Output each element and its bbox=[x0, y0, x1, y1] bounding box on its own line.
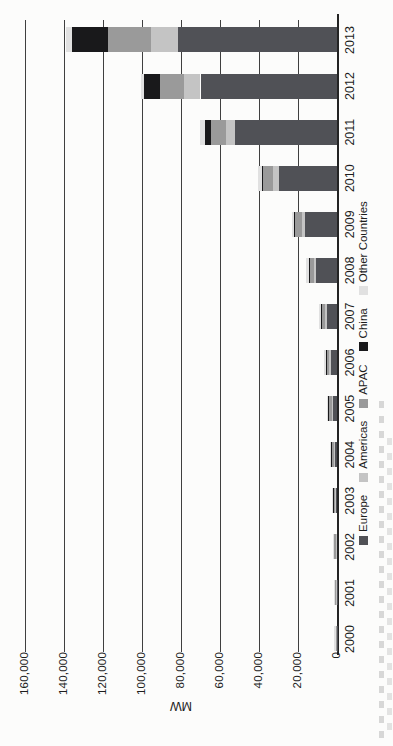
bar-segment-2004-americas bbox=[334, 442, 335, 467]
cut-off-caption-artifact bbox=[387, 430, 392, 730]
bar-segment-2004-apac bbox=[331, 442, 333, 467]
bar-segment-2010-other-countries bbox=[258, 166, 261, 191]
year-label: 2010 bbox=[343, 156, 357, 200]
bar-segment-2002-europe bbox=[336, 534, 337, 559]
year-label: 2008 bbox=[343, 248, 357, 292]
year-label: 2005 bbox=[343, 387, 357, 431]
bar-segment-2012-europe bbox=[201, 74, 338, 99]
bar-segment-2010-europe bbox=[279, 166, 337, 191]
bar-segment-2011-europe bbox=[235, 120, 337, 145]
gridline bbox=[142, 20, 143, 646]
bar-segment-2008-other-countries bbox=[306, 258, 308, 283]
value-axis-tick-label: 20,000 bbox=[291, 652, 303, 728]
value-axis-tick-label: 100,000 bbox=[135, 652, 147, 728]
legend-label: China bbox=[357, 308, 369, 338]
bar-segment-2000-apac bbox=[336, 627, 337, 652]
bar-segment-2010-americas bbox=[273, 166, 279, 191]
legend-label: Americas bbox=[357, 421, 369, 469]
year-label: 2000 bbox=[343, 617, 357, 661]
legend-marker bbox=[359, 473, 368, 482]
bar-segment-2011-apac bbox=[211, 120, 226, 145]
bar-segment-2004-other-countries bbox=[330, 442, 331, 467]
bar-segment-2011-americas bbox=[226, 120, 235, 145]
bar-segment-2004-europe bbox=[334, 442, 337, 467]
legend-item-china: China bbox=[357, 308, 369, 351]
pv-cumulative-capacity-chart: 020,00040,00060,00080,000100,000120,0001… bbox=[0, 0, 393, 746]
gridline bbox=[25, 20, 26, 646]
gridline bbox=[298, 20, 299, 646]
year-label: 2001 bbox=[343, 571, 357, 615]
legend-marker bbox=[359, 399, 368, 408]
bar-segment-2001-other-countries bbox=[334, 580, 335, 605]
bar-segment-2009-americas bbox=[302, 212, 306, 237]
bar-segment-2007-americas bbox=[325, 304, 327, 329]
legend-marker bbox=[359, 286, 368, 295]
bar-segment-2005-apac bbox=[329, 396, 332, 421]
year-label: 2009 bbox=[343, 202, 357, 246]
bar-segment-2013-china bbox=[72, 27, 108, 52]
bar-segment-2001-apac bbox=[335, 580, 336, 605]
bar-segment-2013-europe bbox=[178, 27, 337, 52]
bar-segment-2007-apac bbox=[321, 304, 325, 329]
gridline bbox=[220, 20, 221, 646]
legend-label: Europe bbox=[357, 495, 369, 532]
bar-segment-2013-americas bbox=[151, 27, 178, 52]
y-axis-title: MW bbox=[170, 699, 192, 713]
year-label: 2002 bbox=[343, 525, 357, 569]
value-axis-tick-label: 80,000 bbox=[174, 652, 186, 728]
year-label: 2003 bbox=[343, 479, 357, 523]
year-label: 2011 bbox=[343, 110, 357, 154]
legend-item-americas: Americas bbox=[357, 421, 369, 482]
scanned-page: 020,00040,00060,00080,000100,000120,0001… bbox=[0, 0, 393, 746]
bar-segment-2010-china bbox=[262, 166, 264, 191]
bar-segment-2006-europe bbox=[331, 350, 337, 375]
bar-segment-2002-apac bbox=[334, 534, 335, 559]
bar-segment-2012-americas bbox=[184, 74, 201, 99]
bar-segment-2008-americas bbox=[314, 258, 316, 283]
legend-label: Other Countries bbox=[357, 201, 369, 282]
bar-segment-2002-other-countries bbox=[333, 534, 334, 559]
legend-item-apac: APAC bbox=[357, 364, 369, 407]
value-axis-tick-label: 0 bbox=[330, 652, 342, 728]
bar-segment-2006-other-countries bbox=[324, 350, 326, 375]
bar-segment-2005-other-countries bbox=[327, 396, 328, 421]
value-axis-tick-label: 40,000 bbox=[252, 652, 264, 728]
legend-label: APAC bbox=[357, 364, 369, 394]
legend-item-other-countries: Other Countries bbox=[357, 201, 369, 295]
legend: EuropeAmericasAPACChinaOther Countries bbox=[357, 0, 369, 746]
legend-marker bbox=[359, 536, 368, 545]
bar-segment-2012-china bbox=[144, 74, 160, 99]
bar-segment-2000-other-countries bbox=[334, 627, 335, 652]
bar-segment-2011-china bbox=[205, 120, 211, 145]
value-axis-tick-label: 120,000 bbox=[96, 652, 108, 728]
bar-segment-2009-other-countries bbox=[292, 212, 295, 237]
year-label: 2013 bbox=[343, 18, 357, 62]
value-axis-tick-label: 60,000 bbox=[213, 652, 225, 728]
bar-segment-2005-europe bbox=[333, 396, 337, 421]
bar-segment-2003-americas bbox=[335, 488, 336, 513]
value-axis-tick-label: 160,000 bbox=[18, 652, 30, 728]
gridline bbox=[64, 20, 65, 646]
bar-segment-2006-apac bbox=[326, 350, 330, 375]
bar-segment-2011-other-countries bbox=[200, 120, 205, 145]
bar-segment-2005-americas bbox=[332, 396, 333, 421]
bar-segment-2008-europe bbox=[316, 258, 337, 283]
cut-off-caption-artifact bbox=[379, 400, 384, 738]
gridline bbox=[259, 20, 260, 646]
bar-segment-2003-other-countries bbox=[332, 488, 333, 513]
gridline bbox=[181, 20, 182, 646]
gridline bbox=[103, 20, 104, 646]
legend-item-europe: Europe bbox=[357, 495, 369, 545]
year-label: 2004 bbox=[343, 433, 357, 477]
year-label: 2012 bbox=[343, 64, 357, 108]
bar-segment-2003-europe bbox=[336, 488, 337, 513]
bar-segment-2010-apac bbox=[263, 166, 273, 191]
bar-segment-2007-other-countries bbox=[319, 304, 321, 329]
value-axis-baseline bbox=[337, 14, 339, 655]
year-label: 2006 bbox=[343, 341, 357, 385]
bar-segment-2013-apac bbox=[108, 27, 151, 52]
bar-segment-2012-other-countries bbox=[141, 74, 144, 99]
bar-segment-2006-americas bbox=[329, 350, 330, 375]
bar-segment-2013-other-countries bbox=[66, 27, 72, 52]
bar-segment-2008-apac bbox=[309, 258, 314, 283]
